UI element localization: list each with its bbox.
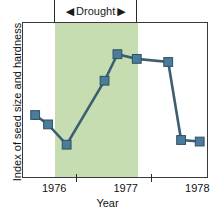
arrow-left-icon: ◀ [66,6,74,17]
data-point-marker [132,54,141,63]
drought-annotation: ◀ Drought ▶ [54,0,137,22]
arrow-right-icon: ▶ [117,6,125,17]
x-axis-tick [151,174,153,182]
drought-label-row: ◀ Drought ▶ [54,2,137,20]
series-line [35,54,200,144]
data-point-marker [195,137,204,146]
data-point-marker [44,120,53,129]
data-point-marker [62,140,71,149]
x-tick-label-1976: 1976 [42,182,66,194]
x-tick-label-1978: 1978 [185,182,209,194]
data-point-marker [164,58,173,67]
drought-label: Drought [76,5,115,17]
x-axis-title: Year [0,197,215,209]
x-tick-label-1977: 1977 [113,182,137,194]
data-point-marker [177,136,186,145]
data-point-marker [31,111,40,120]
series-plot [23,23,208,178]
data-point-marker [113,50,122,59]
plot-area [22,22,208,178]
data-point-marker [100,76,109,85]
chart-figure: ◀ Drought ▶ Index of seed size and hardn… [0,0,215,215]
x-axis-tick [76,174,78,182]
